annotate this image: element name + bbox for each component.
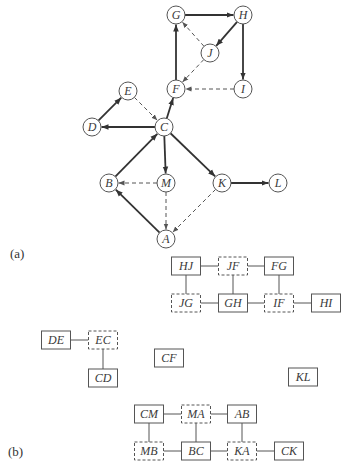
- node-E: E: [119, 82, 137, 100]
- box-FG: FG: [265, 257, 294, 275]
- box-label: JF: [227, 259, 240, 273]
- edge-D-E: [98, 98, 121, 121]
- box-label: CK: [281, 444, 298, 458]
- node-J: J: [201, 44, 219, 62]
- box-IF: IF: [265, 294, 294, 312]
- box-label: DE: [47, 333, 65, 347]
- node-label: A: [161, 232, 170, 246]
- box-BC: BC: [182, 442, 211, 460]
- box-DE: DE: [42, 331, 71, 349]
- edge-B-C: [115, 134, 157, 177]
- node-label: L: [274, 176, 282, 190]
- box-label: JG: [179, 296, 193, 310]
- box-CM: CM: [135, 405, 164, 423]
- box-MB: MB: [135, 442, 164, 460]
- box-label: MB: [139, 444, 158, 458]
- node-C: C: [155, 118, 173, 136]
- box-MA: MA: [182, 405, 211, 423]
- edge-C-K: [170, 133, 215, 176]
- node-I: I: [234, 80, 252, 98]
- node-label: H: [238, 8, 249, 22]
- edge-boxes: HJJFFGJGGHIFHIDEECCDCFKLCMMAABMBBCKACK: [42, 257, 341, 460]
- edge-E-C: [134, 97, 157, 120]
- box-label: BC: [188, 444, 204, 458]
- edge-K-A: [173, 189, 216, 232]
- edge-A-B: [116, 190, 160, 233]
- box-label: KL: [295, 370, 311, 384]
- node-M: M: [157, 174, 175, 192]
- box-CD: CD: [89, 369, 118, 387]
- box-HJ: HJ: [172, 257, 201, 275]
- box-HI: HI: [312, 294, 341, 312]
- node-label: D: [87, 120, 97, 134]
- panel-a-label: (a): [10, 246, 24, 261]
- directed-edges: [98, 15, 268, 233]
- node-label: B: [105, 176, 113, 190]
- node-G: G: [167, 6, 185, 24]
- box-label: HI: [319, 296, 334, 310]
- box-label: MA: [186, 407, 205, 421]
- node-D: D: [83, 118, 101, 136]
- node-label: C: [160, 120, 169, 134]
- box-KA: KA: [228, 442, 257, 460]
- box-label: CF: [161, 351, 177, 365]
- box-label: HJ: [178, 259, 194, 273]
- box-label: FG: [270, 259, 287, 273]
- panel-b-boxes: HJJFFGJGGHIFHIDEECCDCFKLCMMAABMBBCKACK (…: [8, 257, 341, 460]
- node-F: F: [167, 80, 185, 98]
- box-label: GH: [224, 296, 243, 310]
- node-label: E: [123, 84, 132, 98]
- box-label: CM: [140, 407, 159, 421]
- box-label: AB: [234, 407, 250, 421]
- box-GH: GH: [219, 294, 248, 312]
- box-label: EC: [94, 333, 111, 347]
- node-L: L: [269, 174, 287, 192]
- edge-C-F: [167, 98, 173, 118]
- panel-a-graph: GHJFIEDCBMKLA (a): [10, 6, 287, 261]
- edge-J-G: [182, 22, 204, 46]
- box-CF: CF: [155, 349, 184, 367]
- node-label: G: [172, 8, 181, 22]
- box-label: CD: [95, 371, 112, 385]
- node-H: H: [234, 6, 252, 24]
- box-CK: CK: [275, 442, 304, 460]
- box-label: IF: [272, 296, 285, 310]
- box-AB: AB: [228, 405, 257, 423]
- diagram-canvas: GHJFIEDCBMKLA (a) HJJFFGJGGHIFHIDEECCDCF…: [0, 0, 344, 464]
- node-A: A: [157, 230, 175, 248]
- box-JG: JG: [172, 294, 201, 312]
- edge-J-F: [183, 60, 204, 83]
- box-JF: JF: [219, 257, 248, 275]
- edge-C-M: [164, 136, 165, 174]
- node-label: J: [207, 46, 213, 60]
- node-label: F: [171, 82, 180, 96]
- box-KL: KL: [289, 368, 318, 386]
- node-label: K: [217, 176, 227, 190]
- node-B: B: [100, 174, 118, 192]
- node-label: M: [160, 176, 172, 190]
- box-label: KA: [233, 444, 250, 458]
- panel-b-label: (b): [8, 444, 23, 459]
- edge-H-J: [216, 22, 237, 46]
- box-EC: EC: [89, 331, 118, 349]
- node-K: K: [213, 174, 231, 192]
